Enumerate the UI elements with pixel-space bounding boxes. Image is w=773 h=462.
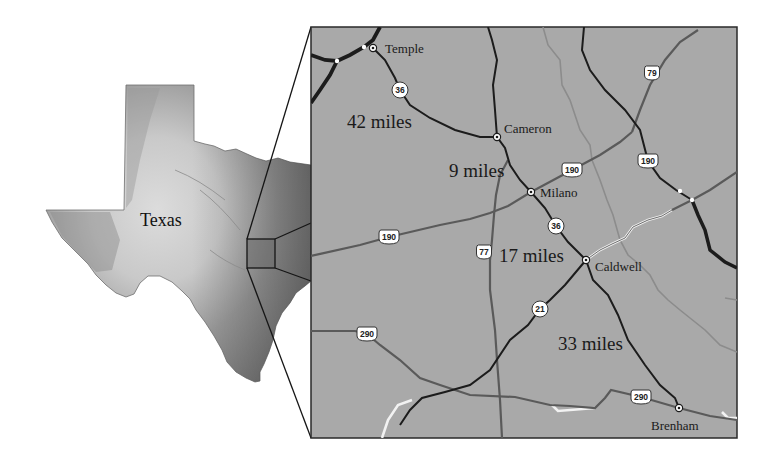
city-label: Temple — [385, 41, 424, 56]
detail-map: 3636211901901907977290290 TempleCameronM… — [311, 27, 737, 438]
city-label: Milano — [540, 185, 578, 200]
distance-label-temple-cameron: 42 miles — [347, 111, 412, 132]
us-route-shield-290: 290 — [357, 327, 377, 341]
us-route-shield-290: 290 — [631, 390, 651, 404]
us-route-shield-190: 190 — [562, 163, 582, 177]
interchange-dot — [678, 189, 682, 193]
inset-box — [247, 239, 275, 268]
route-number: 36 — [395, 85, 405, 95]
distance-label-cameron-milano: 9 miles — [449, 160, 504, 181]
route-number: 190 — [641, 156, 655, 166]
texas-route-map-figure: Texas — [0, 0, 773, 462]
state-label-texas: Texas — [140, 210, 182, 230]
distance-label-milano-caldwell: 17 miles — [499, 245, 564, 266]
route-number: 77 — [479, 247, 489, 257]
route-number: 190 — [565, 165, 579, 175]
state-route-shield-36: 36 — [548, 218, 564, 234]
city-label: Cameron — [504, 121, 552, 136]
us-route-shield-190: 190 — [638, 154, 658, 168]
route-number: 290 — [634, 392, 648, 402]
route-number: 290 — [360, 329, 374, 339]
state-route-shield-21: 21 — [532, 301, 548, 317]
route-number: 36 — [551, 221, 561, 231]
us-route-shield-77: 77 — [477, 245, 492, 259]
interchange-dot — [690, 198, 694, 202]
interchange-dot — [362, 45, 366, 49]
map-frame — [311, 27, 737, 438]
distance-label-caldwell-brenham: 33 miles — [558, 333, 623, 354]
us-route-shield-79: 79 — [645, 66, 660, 80]
texas-state-map: Texas — [46, 85, 311, 382]
us-route-shield-190: 190 — [379, 230, 399, 244]
route-number: 190 — [382, 232, 396, 242]
city-label: Caldwell — [595, 259, 642, 274]
interchange-dot — [335, 59, 339, 63]
route-number: 79 — [647, 68, 657, 78]
city-label: Brenham — [651, 418, 699, 433]
route-number: 21 — [535, 304, 545, 314]
state-route-shield-36: 36 — [392, 82, 408, 98]
